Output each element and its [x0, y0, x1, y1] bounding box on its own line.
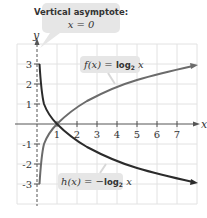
y-tick-label: -3 — [22, 179, 32, 190]
asymptote-callout: Vertical asymptote: x = 0 — [34, 3, 128, 48]
y-tick-label: -1 — [22, 139, 32, 150]
x-tick-label: 3 — [94, 129, 100, 140]
y-tick-label: 3 — [26, 59, 32, 70]
x-tick-label: 1 — [54, 129, 60, 140]
y-tick-label: 1 — [26, 99, 32, 110]
x-tick-label: 5 — [134, 129, 140, 140]
chart: 1 2 3 4 5 6 7 3 2 1 -1 -2 -3 x y f(x) = … — [0, 0, 207, 218]
callout-equation: x = 0 — [68, 19, 95, 30]
x-tick-label: 7 — [174, 129, 180, 140]
y-tick-label: 2 — [26, 79, 32, 90]
svg-text:f(x) = log2 x: f(x) = log2 x — [83, 59, 144, 71]
y-axis-label: y — [32, 29, 40, 42]
callout-title: Vertical asymptote: — [34, 7, 128, 17]
y-tick-label: -2 — [22, 159, 32, 170]
h-label: h(x) = −log2 x — [58, 164, 132, 190]
x-tick-label: 4 — [114, 129, 120, 140]
x-tick-label: 6 — [154, 129, 160, 140]
x-axis — [15, 122, 200, 127]
x-axis-label: x — [201, 118, 207, 131]
